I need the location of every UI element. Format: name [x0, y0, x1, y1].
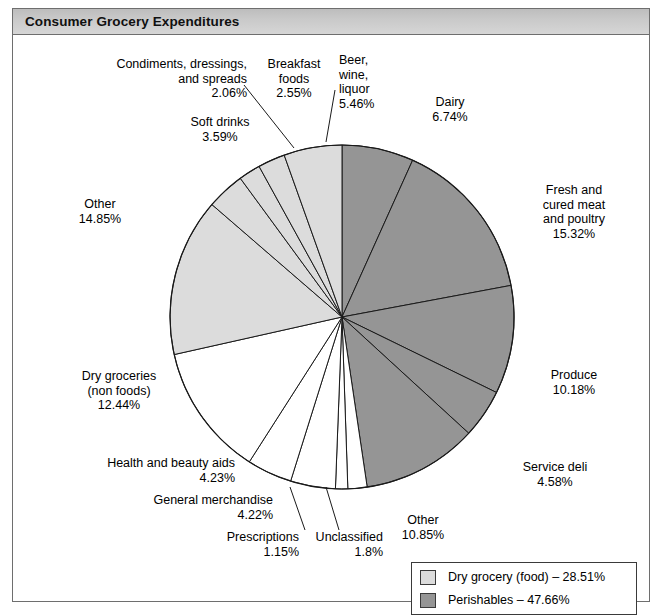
pie-label-servicedeli-value: 4.58%: [505, 475, 605, 490]
pie-label-hba-value: 4.23%: [49, 471, 235, 486]
pie-label-other-dry-grocery: Other 14.85%: [61, 197, 139, 226]
pie-label-fresh-cured-meat: Fresh and cured meat and poultry 15.32%: [519, 183, 629, 241]
pie-label-meat-value: 15.32%: [519, 227, 629, 242]
pie-label-drygroceries-line2: (non foods): [61, 384, 177, 399]
pie-label-other-dry-value: 14.85%: [61, 212, 139, 227]
chart-legend: Dry grocery (food) – 28.51% Perishables …: [411, 562, 637, 615]
pie-label-genmerch-value: 4.22%: [93, 508, 273, 523]
pie-label-general-merchandise: General merchandise 4.22%: [93, 493, 273, 522]
legend-item-perishables: Perishables – 47.66%: [420, 589, 570, 611]
pie-label-soft-drinks: Soft drinks 3.59%: [173, 115, 267, 144]
pie-label-condiments-line2: and spreads: [75, 72, 247, 87]
pie-label-beer-value: 5.46%: [339, 97, 409, 112]
pie-label-meat-line2: cured meat: [519, 198, 629, 213]
legend-label-dry-grocery: Dry grocery (food) – 28.51%: [448, 570, 605, 584]
pie-label-dairy-value: 6.74%: [413, 110, 487, 125]
pie-label-prescriptions: Prescriptions 1.15%: [191, 530, 299, 559]
pie-label-unclassified-value: 1.8%: [303, 545, 383, 560]
pie-label-unclassified-line1: Unclassified: [303, 530, 383, 545]
pie-label-genmerch-line1: General merchandise: [93, 493, 273, 508]
pie-label-produce-value: 10.18%: [531, 383, 617, 398]
pie-label-beer-line1: Beer,: [339, 53, 409, 68]
chart-frame: Consumer Grocery Expenditures Condiments…: [12, 8, 650, 602]
pie-label-condiments: Condiments, dressings, and spreads 2.06%: [75, 57, 247, 101]
pie-slice-group: [170, 145, 514, 489]
pie-label-drygroceries-line1: Dry groceries: [61, 369, 177, 384]
pie-label-produce-line1: Produce: [531, 368, 617, 383]
pie-label-softdrinks-value: 3.59%: [173, 130, 267, 145]
pie-label-dairy: Dairy 6.74%: [413, 95, 487, 124]
pie-label-beer-wine-liquor: Beer, wine, liquor 5.46%: [339, 53, 409, 111]
legend-label-perishables: Perishables – 47.66%: [448, 593, 570, 607]
pie-label-other-perishables: Other 10.85%: [383, 513, 463, 542]
pie-label-other-perish-value: 10.85%: [383, 528, 463, 543]
pie-label-condiments-line1: Condiments, dressings,: [75, 57, 247, 72]
pie-label-breakfast-line2: foods: [252, 72, 336, 87]
pie-label-meat-line3: and poultry: [519, 212, 629, 227]
pie-label-servicedeli-line1: Service deli: [505, 460, 605, 475]
legend-item-dry-grocery: Dry grocery (food) – 28.51%: [420, 566, 605, 588]
pie-label-breakfast-line1: Breakfast: [252, 57, 336, 72]
pie-label-breakfast-value: 2.55%: [252, 86, 336, 101]
pie-label-service-deli: Service deli 4.58%: [505, 460, 605, 489]
pie-label-prescriptions-value: 1.15%: [191, 545, 299, 560]
chart-title-bar: Consumer Grocery Expenditures: [13, 9, 649, 35]
pie-chart-plot-area: Condiments, dressings, and spreads 2.06%…: [13, 35, 649, 601]
pie-label-other-perish-line1: Other: [383, 513, 463, 528]
pie-label-dry-groceries-non-foods: Dry groceries (non foods) 12.44%: [61, 369, 177, 413]
pie-label-dairy-line1: Dairy: [413, 95, 487, 110]
pie-label-prescriptions-line1: Prescriptions: [191, 530, 299, 545]
pie-label-health-beauty-aids: Health and beauty aids 4.23%: [49, 456, 235, 485]
pie-label-unclassified: Unclassified 1.8%: [303, 530, 383, 559]
page-title: Consumer Grocery Expenditures: [25, 14, 239, 29]
legend-swatch-dry-grocery: [420, 570, 436, 585]
pie-label-beer-line3: liquor: [339, 82, 409, 97]
pie-label-breakfast-foods: Breakfast foods 2.55%: [252, 57, 336, 101]
pie-label-softdrinks-line1: Soft drinks: [173, 115, 267, 130]
pie-label-meat-line1: Fresh and: [519, 183, 629, 198]
pie-label-hba-line1: Health and beauty aids: [49, 456, 235, 471]
pie-label-drygroceries-value: 12.44%: [61, 398, 177, 413]
pie-label-condiments-value: 2.06%: [75, 86, 247, 101]
legend-swatch-perishables: [420, 593, 436, 608]
pie-label-other-dry-line1: Other: [61, 197, 139, 212]
pie-label-produce: Produce 10.18%: [531, 368, 617, 397]
pie-label-beer-line2: wine,: [339, 68, 409, 83]
